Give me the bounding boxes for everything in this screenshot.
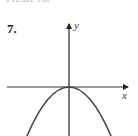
- x-axis-label: x: [122, 89, 127, 101]
- parabola-graph: [0, 0, 138, 136]
- y-axis-label: y: [74, 19, 79, 31]
